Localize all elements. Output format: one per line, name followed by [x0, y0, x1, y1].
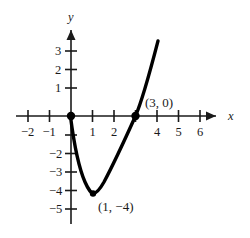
y-axis-arrowhead	[67, 30, 76, 40]
x-tick-label-6: 6	[197, 126, 203, 139]
y-axis-label: y	[68, 11, 74, 24]
origin-point-marker	[67, 112, 75, 120]
vertex-point-marker	[90, 190, 96, 196]
x-tick-label-4: 4	[154, 126, 160, 139]
x-axis-label: x	[228, 110, 234, 123]
x-tick-label-5: 5	[176, 126, 182, 139]
y-tick-label--3: −3	[49, 166, 62, 179]
y-tick-label-1: 1	[55, 82, 61, 95]
y-tick-label--2: −2	[49, 148, 62, 161]
y-tick-label--5: −5	[49, 203, 62, 216]
vertex-annotation: (1, −4)	[98, 200, 134, 213]
x-axis-arrowhead	[206, 112, 216, 121]
x-intercept-point-marker	[131, 112, 139, 120]
x-intercept-annotation: (3, 0)	[145, 96, 173, 109]
y-tick-label--4: −4	[49, 185, 62, 198]
x-tick-label--2: −2	[21, 126, 34, 139]
graph-figure: y x 3 2 1 −2 −3 −4 −5 −2 −1 1 2 4 5 6 (3…	[0, 0, 250, 238]
y-tick-label-2: 2	[55, 64, 61, 77]
x-axis	[16, 112, 216, 121]
x-tick-label-1: 1	[90, 126, 96, 139]
y-tick-label-3: 3	[55, 45, 61, 58]
x-tick-label--1: −1	[43, 126, 56, 139]
x-tick-label-2: 2	[111, 126, 117, 139]
